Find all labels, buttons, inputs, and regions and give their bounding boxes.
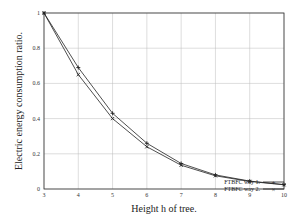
y-tick-label: 0.2 — [33, 151, 41, 157]
data-series — [42, 11, 286, 187]
y-tick-label: 1 — [37, 10, 40, 16]
legend-label-way1: FTBFC way 1. — [224, 179, 260, 185]
y-tick-label: 0.6 — [33, 80, 41, 86]
y-tick-label: 0 — [37, 186, 40, 192]
x-tick-label: 5 — [111, 192, 114, 198]
plot-frame — [44, 13, 284, 189]
y-tick-label: 0.4 — [33, 116, 41, 122]
x-tick-label: 3 — [43, 192, 46, 198]
x-tick-label: 4 — [77, 192, 80, 198]
x-tick-label: 9 — [248, 192, 251, 198]
grid-lines — [44, 13, 284, 189]
line-chart: 345678910 00.20.40.60.81 Height h of tre… — [0, 0, 306, 216]
y-axis-label: Electric energy consumption ratio. — [13, 32, 24, 170]
y-tick-label: 0.8 — [33, 45, 41, 51]
x-tick-label: 6 — [145, 192, 148, 198]
legend: FTBFC way 1. + FTBFC way 2. × — [224, 179, 284, 194]
x-axis-ticks: 345678910 — [43, 192, 288, 198]
y-axis-ticks: 00.20.40.60.81 — [33, 10, 41, 192]
x-tick-label: 8 — [214, 192, 217, 198]
legend-marker-x-icon: × — [272, 186, 276, 194]
series-line-2 — [44, 13, 284, 185]
x-tick-label: 10 — [281, 192, 287, 198]
x-axis-label: Height h of tree. — [131, 203, 197, 214]
legend-label-way2: FTBFC way 2. — [224, 186, 260, 192]
series-line-1 — [44, 13, 284, 185]
x-tick-label: 7 — [180, 192, 183, 198]
